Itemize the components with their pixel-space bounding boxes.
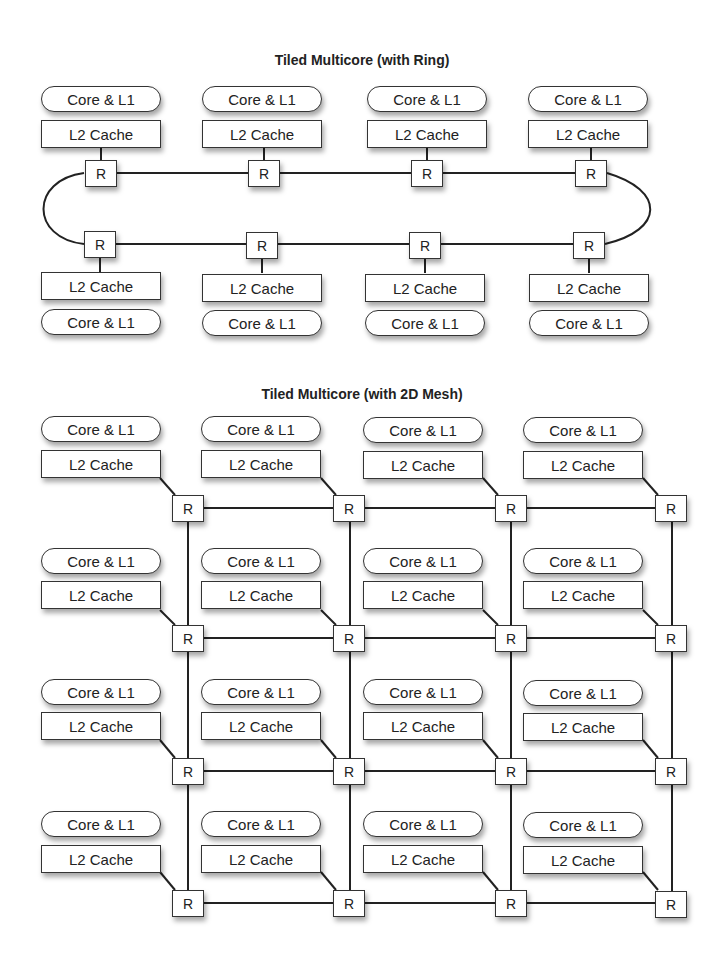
ring-core-bottom-3: Core & L1 — [365, 310, 485, 336]
ring-core-top-2: Core & L1 — [202, 86, 322, 112]
mesh-router-r3c2: R — [333, 758, 365, 785]
mesh-router-r4c1: R — [172, 890, 204, 917]
ring-router-bottom-3: R — [409, 232, 441, 259]
mesh-router-r4c4: R — [655, 891, 687, 918]
ring-core-top-3: Core & L1 — [367, 86, 487, 112]
mesh-core-r3c2: Core & L1 — [201, 679, 321, 705]
mesh-core-r3c4: Core & L1 — [523, 680, 643, 706]
mesh-core-r2c1: Core & L1 — [41, 548, 161, 574]
ring-l2-bottom-3: L2 Cache — [365, 274, 485, 302]
ring-l2-top-4: L2 Cache — [528, 120, 648, 148]
ring-l2-top-1: L2 Cache — [41, 120, 161, 148]
mesh-core-r1c2: Core & L1 — [201, 416, 321, 442]
mesh-l2-r4c4: L2 Cache — [523, 846, 643, 874]
mesh-l2-r1c4: L2 Cache — [523, 451, 643, 479]
ring-core-bottom-4: Core & L1 — [529, 310, 649, 336]
mesh-router-r2c3: R — [495, 625, 527, 652]
mesh-l2-r3c4: L2 Cache — [523, 713, 643, 741]
ring-router-bottom-1: R — [84, 231, 116, 258]
ring-router-bottom-4: R — [573, 232, 605, 259]
mesh-router-r4c2: R — [333, 890, 365, 917]
ring-router-bottom-2: R — [246, 232, 278, 259]
mesh-l2-r3c2: L2 Cache — [201, 712, 321, 740]
mesh-router-r3c1: R — [172, 758, 204, 785]
mesh-core-r1c1: Core & L1 — [41, 416, 161, 442]
mesh-core-r2c2: Core & L1 — [201, 548, 321, 574]
mesh-router-r1c4: R — [655, 495, 687, 522]
mesh-l2-r1c2: L2 Cache — [201, 450, 321, 478]
mesh-core-r1c3: Core & L1 — [363, 417, 483, 443]
mesh-core-r3c3: Core & L1 — [363, 679, 483, 705]
ring-l2-top-2: L2 Cache — [202, 120, 322, 148]
mesh-l2-r2c4: L2 Cache — [523, 581, 643, 609]
mesh-core-r4c4: Core & L1 — [523, 812, 643, 838]
ring-router-top-1: R — [85, 160, 117, 187]
ring-core-bottom-2: Core & L1 — [202, 310, 322, 336]
mesh-l2-r4c2: L2 Cache — [201, 845, 321, 873]
mesh-l2-r4c3: L2 Cache — [363, 845, 483, 873]
ring-core-top-4: Core & L1 — [528, 86, 648, 112]
ring-router-top-2: R — [248, 160, 280, 187]
mesh-core-r4c1: Core & L1 — [41, 811, 161, 837]
mesh-core-r4c2: Core & L1 — [201, 811, 321, 837]
mesh-router-r1c1: R — [172, 495, 204, 522]
mesh-router-r1c3: R — [495, 495, 527, 522]
ring-router-top-3: R — [411, 160, 443, 187]
mesh-l2-r3c1: L2 Cache — [41, 712, 161, 740]
mesh-router-r3c4: R — [655, 758, 687, 785]
mesh-core-r3c1: Core & L1 — [41, 679, 161, 705]
mesh-core-r1c4: Core & L1 — [523, 417, 643, 443]
mesh-l2-r2c1: L2 Cache — [41, 581, 161, 609]
ring-core-top-1: Core & L1 — [41, 86, 161, 112]
mesh-core-r2c3: Core & L1 — [363, 548, 483, 574]
mesh-l2-r1c1: L2 Cache — [41, 450, 161, 478]
mesh-router-r2c2: R — [333, 625, 365, 652]
mesh-router-r4c3: R — [495, 890, 527, 917]
mesh-l2-r1c3: L2 Cache — [363, 451, 483, 479]
mesh-router-r2c1: R — [172, 625, 204, 652]
mesh-router-r3c3: R — [495, 758, 527, 785]
mesh-core-r4c3: Core & L1 — [363, 811, 483, 837]
mesh-l2-r4c1: L2 Cache — [41, 845, 161, 873]
ring-l2-bottom-2: L2 Cache — [202, 274, 322, 302]
mesh-l2-r3c3: L2 Cache — [363, 712, 483, 740]
mesh-l2-r2c2: L2 Cache — [201, 581, 321, 609]
ring-core-bottom-1: Core & L1 — [41, 309, 161, 335]
ring-router-top-4: R — [575, 160, 607, 187]
ring-l2-top-3: L2 Cache — [367, 120, 487, 148]
mesh-l2-r2c3: L2 Cache — [363, 581, 483, 609]
mesh-router-r2c4: R — [655, 625, 687, 652]
ring-l2-bottom-4: L2 Cache — [529, 274, 649, 302]
mesh-router-r1c2: R — [333, 495, 365, 522]
mesh-core-r2c4: Core & L1 — [523, 548, 643, 574]
ring-l2-bottom-1: L2 Cache — [41, 272, 161, 300]
